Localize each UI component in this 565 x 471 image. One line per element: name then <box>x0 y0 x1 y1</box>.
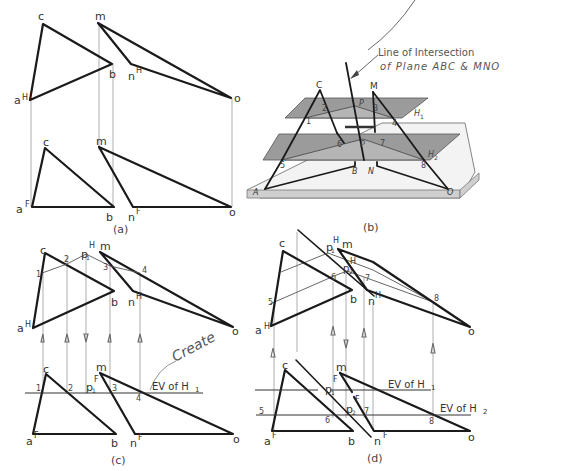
triangle-mno-top <box>100 252 233 327</box>
label-a-front-sup: F <box>34 431 39 440</box>
arrow-up-icon <box>108 334 111 342</box>
base-plane-edge <box>247 190 460 198</box>
label-p1-sup: H <box>333 236 339 245</box>
label-m: m <box>100 240 111 253</box>
caption-a: (a) <box>113 223 128 236</box>
label-N: N <box>368 167 374 176</box>
label-n-front-sup: F <box>383 431 388 440</box>
annotation-line2: of Plane ABC & MNO <box>380 61 500 72</box>
label-b: b <box>350 293 357 306</box>
line-of-intersection-front <box>296 360 371 437</box>
panel-c: Create c p 1 H m 1 2 3 4 b n H a H o c m… <box>17 240 240 467</box>
label-p1-front-sup: F <box>333 375 338 384</box>
point-8: 8 <box>421 161 426 170</box>
label-n: n <box>128 70 135 83</box>
label-n: n <box>128 296 135 309</box>
label-H1-sub: 1 <box>420 113 424 120</box>
label-P2: P <box>360 140 365 149</box>
label-a-sup: H <box>25 320 31 329</box>
point-4: 4 <box>392 119 397 128</box>
label-a-front: a <box>264 435 271 448</box>
label-p-front-sup: F <box>94 375 99 384</box>
label-o: o <box>468 325 475 338</box>
label-p2-front-sub: 2 <box>352 409 356 416</box>
handwritten-note: Create <box>169 329 218 365</box>
triangle-abc-top <box>271 251 352 326</box>
point-6: 6 <box>337 140 342 149</box>
label-4: 4 <box>142 266 147 275</box>
label-7: 7 <box>365 274 370 283</box>
label-1: 1 <box>36 270 41 279</box>
label-4-front: 4 <box>136 394 141 403</box>
label-6-front: 6 <box>325 416 330 425</box>
label-n-sup: H <box>136 66 142 75</box>
triangle-abc-top <box>33 253 114 328</box>
label-a-front: a <box>16 203 23 216</box>
label-b-front: b <box>111 437 118 450</box>
triangle-abc-top <box>30 24 112 100</box>
caption-b: (b) <box>363 221 379 234</box>
label-b-front: b <box>348 435 355 448</box>
label-p1-sub: 1 <box>331 247 335 254</box>
label-n: n <box>368 295 375 308</box>
leader-curve <box>368 0 415 50</box>
point-1: 1 <box>306 117 311 126</box>
label-m: m <box>95 10 106 23</box>
label-a-front: a <box>26 435 33 448</box>
label-8-front: 8 <box>429 417 434 426</box>
label-a-sup: H <box>22 93 28 102</box>
triangle-mno-top <box>338 249 470 327</box>
cutting-line-h1 <box>42 254 140 273</box>
label-c-front: c <box>282 359 288 372</box>
leader-arrow-icon <box>350 70 359 79</box>
panel-a: c m b n H a H o c m a F b n F o (a) <box>14 10 241 236</box>
triangle-abc-front <box>32 148 114 207</box>
panel-d: c p 1 H m H p 2 6 7 5 8 b n H a H o c m … <box>255 230 487 465</box>
label-a: a <box>14 94 21 107</box>
label-1-front: 1 <box>36 384 41 393</box>
label-5-front: 5 <box>259 407 264 416</box>
label-a: a <box>17 322 24 335</box>
label-A: A <box>252 188 258 197</box>
label-P1: P <box>359 99 364 108</box>
label-a-sup: H <box>264 322 270 331</box>
label-n-front: n <box>128 211 135 224</box>
label-2: 2 <box>64 255 69 264</box>
label-h: H <box>350 257 356 266</box>
ev-h1-sub: 1 <box>431 384 435 392</box>
label-m-front: m <box>336 361 347 374</box>
label-b: b <box>109 68 116 81</box>
label-3-front: 3 <box>112 384 117 393</box>
label-c: c <box>40 244 46 257</box>
panel-b: Line of Intersection of Plane ABC & MNO … <box>247 0 500 234</box>
label-a: a <box>255 324 262 337</box>
label-o-front: o <box>233 433 240 446</box>
label-3: 3 <box>103 263 108 272</box>
triangle-abc-front <box>33 374 116 434</box>
label-m-front: m <box>96 361 107 374</box>
label-n-sup: H <box>375 291 381 300</box>
intersection-of-planes-figure: c m b n H a H o c m a F b n F o (a) <box>0 0 565 471</box>
label-m: m <box>342 238 353 251</box>
label-p1-front-sub: 1 <box>331 389 335 396</box>
label-O: O <box>447 188 453 197</box>
label-o-front: o <box>229 206 236 219</box>
label-b: b <box>111 296 118 309</box>
label-a-front-sup: F <box>272 431 277 440</box>
caption-d: (d) <box>367 452 383 465</box>
label-p-sup: H <box>89 241 95 250</box>
point-7: 7 <box>380 139 385 148</box>
ev-h2-sub: 2 <box>483 408 487 416</box>
label-o: o <box>232 325 239 338</box>
label-C: C <box>316 80 322 90</box>
label-5: 5 <box>268 298 273 307</box>
label-n-front-sup: F <box>136 207 141 216</box>
label-p2-front-sup: F <box>355 395 360 404</box>
label-p2-sub: 2 <box>349 268 353 275</box>
label-c-front: c <box>43 363 49 376</box>
ev-h1-sub: 1 <box>195 386 199 394</box>
label-o-front: o <box>468 431 475 444</box>
ev-h1-label: EV of H <box>388 379 425 390</box>
point-5: 5 <box>280 161 285 170</box>
label-o: o <box>234 92 241 105</box>
